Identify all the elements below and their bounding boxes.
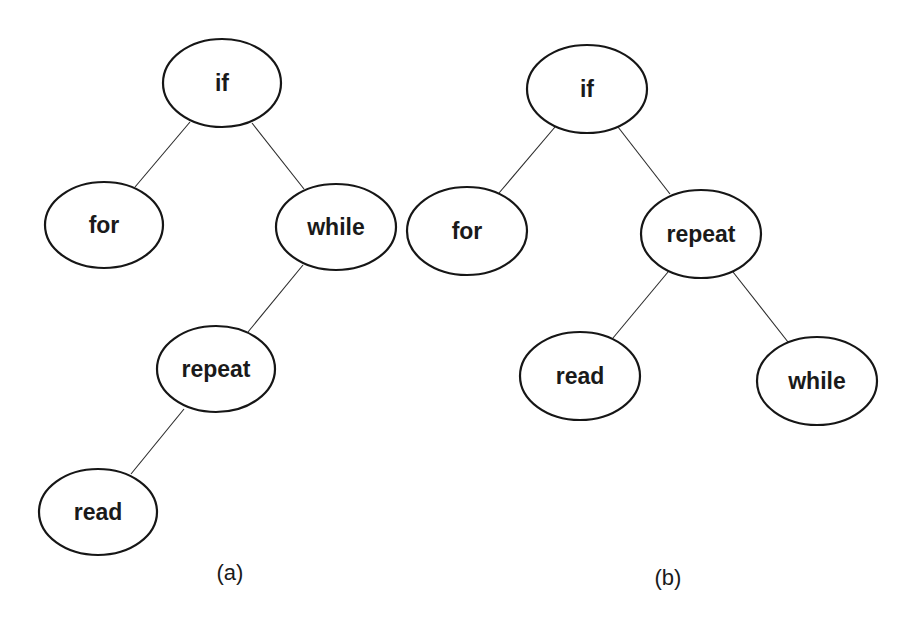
edge-repeat-read [131,409,184,474]
tree-node-repeat: repeat [157,326,275,412]
edge-while-repeat [248,265,303,332]
edge-if-while [252,123,304,189]
node-label: while [306,214,365,240]
tree-node-if: if [163,39,281,127]
node-label: repeat [666,221,735,247]
tree-node-for: for [45,182,163,268]
tree-caption-a: (a) [217,560,244,585]
diagram-canvas: ifforwhilerepeatread(a) ifforrepeatreadw… [0,0,903,624]
node-label: for [452,218,483,244]
edge-if-repeat [618,127,670,194]
edge-if-for [135,122,190,187]
tree-node-read: read [39,469,157,555]
tree-node-while: while [276,184,396,270]
node-label: if [215,70,229,96]
tree-b: ifforrepeatreadwhile(b) [407,45,877,590]
node-label: read [556,363,605,389]
tree-node-read: read [520,332,640,420]
edge-repeat-while [733,272,788,342]
node-label: read [74,499,123,525]
node-label: repeat [181,356,250,382]
tree-node-for: for [407,187,527,275]
tree-caption-b: (b) [655,565,682,590]
node-label: if [580,76,594,102]
tree-node-while: while [757,337,877,425]
edge-if-for [499,127,555,193]
node-label: while [787,368,846,394]
tree-a: ifforwhilerepeatread(a) [39,39,396,585]
tree-node-if: if [527,45,647,133]
edge-repeat-read [613,272,668,338]
node-label: for [89,212,120,238]
tree-node-repeat: repeat [641,190,761,278]
